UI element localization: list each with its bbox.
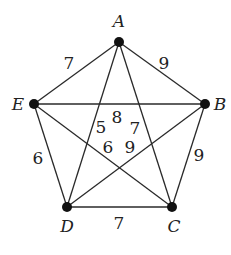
node-a [114, 37, 124, 47]
edge-weight-ec: 6 [103, 137, 114, 157]
edge-ae [34, 42, 119, 104]
edge-ab [119, 42, 205, 104]
node-c [167, 202, 177, 212]
node-label-c: C [167, 216, 180, 236]
node-e [29, 99, 39, 109]
edge-weight-bc: 9 [194, 145, 205, 165]
node-label-b: B [213, 94, 227, 114]
node-label-e: E [11, 94, 25, 114]
edge-weight-de: 6 [33, 148, 44, 168]
node-label-d: D [59, 216, 74, 236]
edge-weight-bd: 9 [125, 137, 136, 157]
edge-weight-eb: 8 [112, 107, 123, 127]
edge-weight-ab: 9 [159, 53, 170, 73]
node-label-a: A [111, 11, 125, 31]
edge-weight-cd: 7 [114, 213, 125, 233]
edge-weight-ad: 5 [96, 117, 107, 137]
node-b [200, 99, 210, 109]
edge-weight-ae: 7 [64, 53, 75, 73]
graph-diagram: 7997685769ABCDE [0, 0, 231, 255]
edge-weight-ac: 7 [130, 118, 141, 138]
node-d [62, 202, 72, 212]
